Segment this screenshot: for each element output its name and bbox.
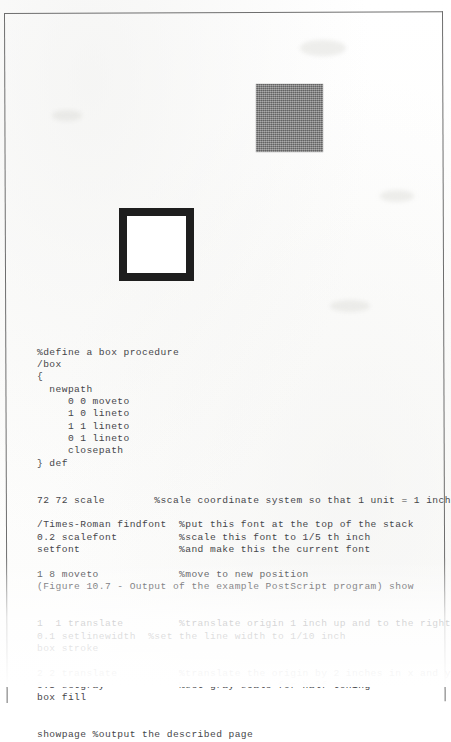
code-line (37, 705, 442, 717)
code-line: /box (37, 359, 442, 371)
code-line: %define a box procedure (37, 347, 442, 359)
code-line (37, 655, 442, 667)
code-line: 0 1 lineto (37, 433, 442, 445)
code-line: 0.5 setgray %set gray scale for half ton… (37, 680, 442, 692)
code-line (37, 606, 442, 618)
code-line: box stroke (37, 643, 442, 655)
code-line: 1 1 translate %translate origin 1 inch u… (37, 618, 442, 630)
code-line (37, 717, 442, 729)
code-line: { (37, 371, 442, 383)
code-line: 0 0 moveto (37, 396, 442, 408)
stroked-outline-box (119, 208, 194, 281)
code-line: /Times-Roman findfont %put this font at … (37, 519, 442, 531)
code-line (37, 556, 442, 568)
gray-filled-box (256, 84, 323, 152)
code-line: newpath (37, 384, 442, 396)
code-line: } def (37, 458, 442, 470)
code-line: 0.2 scalefont %scale this font to 1/5 th… (37, 532, 442, 544)
code-line (37, 507, 442, 519)
postscript-code-listing: %define a box procedure/box{ newpath 0 0… (37, 347, 442, 742)
code-line: 1 8 moveto %move to new position (37, 569, 442, 581)
code-line: 1 1 lineto (37, 421, 442, 433)
code-line (37, 482, 442, 494)
code-line: closepath (37, 445, 442, 457)
code-line: 1 0 lineto (37, 408, 442, 420)
code-line: box fill (37, 692, 442, 704)
code-line: 72 72 scale %scale coordinate system so … (37, 495, 442, 507)
code-line (37, 470, 442, 482)
code-line: setfont %and make this the current font (37, 544, 442, 556)
code-line (37, 593, 442, 605)
code-line: 2 2 translate %translate the origin by 2… (37, 668, 442, 680)
code-line: showpage %output the described page (37, 729, 442, 741)
code-line: 0.1 setlinewidth %set the line width to … (37, 631, 442, 643)
code-line: (Figure 10.7 - Output of the example Pos… (37, 581, 442, 593)
